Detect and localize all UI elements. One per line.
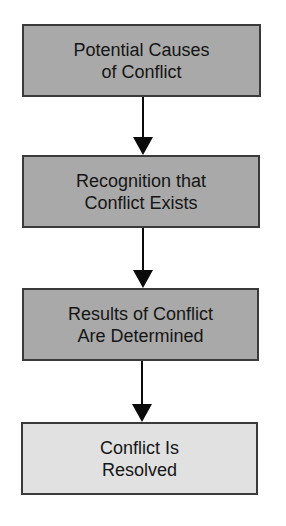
arrow-down-icon: [133, 137, 153, 155]
arrow-shaft: [142, 97, 144, 139]
node-results-determined: Results of Conflict Are Determined: [22, 288, 259, 361]
node-label: Results of Conflict Are Determined: [68, 303, 213, 347]
arrow-shaft: [142, 228, 144, 272]
node-label: Recognition that Conflict Exists: [76, 170, 206, 214]
arrow-down-icon: [132, 404, 152, 422]
node-conflict-resolved: Conflict Is Resolved: [21, 422, 258, 495]
arrow-down-icon: [133, 270, 153, 288]
node-label: Conflict Is Resolved: [100, 437, 179, 481]
node-potential-causes: Potential Causes of Conflict: [22, 24, 261, 97]
node-recognition: Recognition that Conflict Exists: [22, 155, 260, 228]
node-label: Potential Causes of Conflict: [73, 39, 209, 83]
arrow-shaft: [141, 361, 143, 405]
